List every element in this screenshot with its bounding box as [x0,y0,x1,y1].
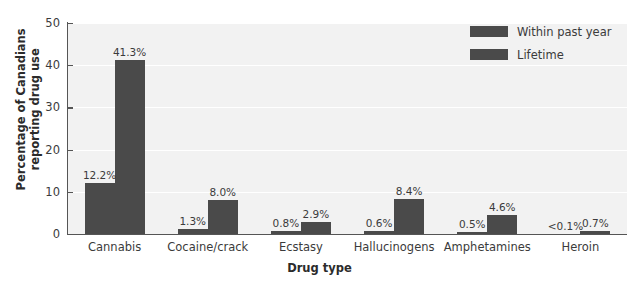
bar-value-label: 4.6% [489,201,516,213]
bar [487,215,517,234]
y-axis-tick [68,23,73,24]
bar-value-label: 0.5% [459,218,486,230]
bar-value-label: 0.8% [273,217,300,229]
y-axis-title-line: reporting drug use [28,9,42,209]
bar-value-label: 8.4% [396,185,423,197]
x-axis-category-label: Cocaine/crack [167,240,248,254]
bar-value-label: 12.2% [83,169,116,181]
x-axis-category-label: Amphetamines [444,240,531,254]
legend: Within past yearLifetime [470,22,611,68]
y-axis-tick-label: 0 [38,227,60,241]
bar-value-label: <0.1% [548,220,583,232]
bar [85,183,115,234]
x-axis-category-label: Hallucinogens [354,240,435,254]
bar-value-label: 41.3% [113,46,146,58]
x-axis-category-label: Ecstasy [279,240,323,254]
y-axis-title-line: Percentage of Canadians [14,9,28,209]
bar-value-label: 0.7% [582,217,609,229]
y-axis-line [67,22,68,235]
legend-item: Lifetime [470,45,611,64]
x-axis-line [67,234,627,235]
legend-label: Lifetime [517,48,564,62]
x-axis-category-label: Heroin [562,240,600,254]
y-axis-tick [68,234,73,235]
y-axis-tick [68,65,73,66]
x-axis-category-label: Cannabis [88,240,141,254]
y-axis-title: Percentage of Canadiansreporting drug us… [14,9,43,209]
x-axis-title: Drug type [0,261,639,275]
legend-item: Within past year [470,22,611,41]
bar-value-label: 0.6% [366,217,393,229]
bar [208,200,238,234]
y-axis-tick [68,192,73,193]
y-axis-tick [68,107,73,108]
gridline [68,192,627,193]
legend-swatch [470,26,508,37]
bar [394,199,424,234]
legend-label: Within past year [517,25,611,39]
bar-value-label: 8.0% [209,186,236,198]
legend-swatch [470,49,508,60]
y-axis-tick [68,150,73,151]
bar-chart-figure: 01020304050 12.2%41.3%1.3%8.0%0.8%2.9%0.… [0,0,639,289]
gridline [68,107,627,108]
bar-value-label: 2.9% [303,208,330,220]
bar [115,60,145,234]
gridline [68,150,627,151]
bar [301,222,331,234]
bar-value-label: 1.3% [179,215,206,227]
